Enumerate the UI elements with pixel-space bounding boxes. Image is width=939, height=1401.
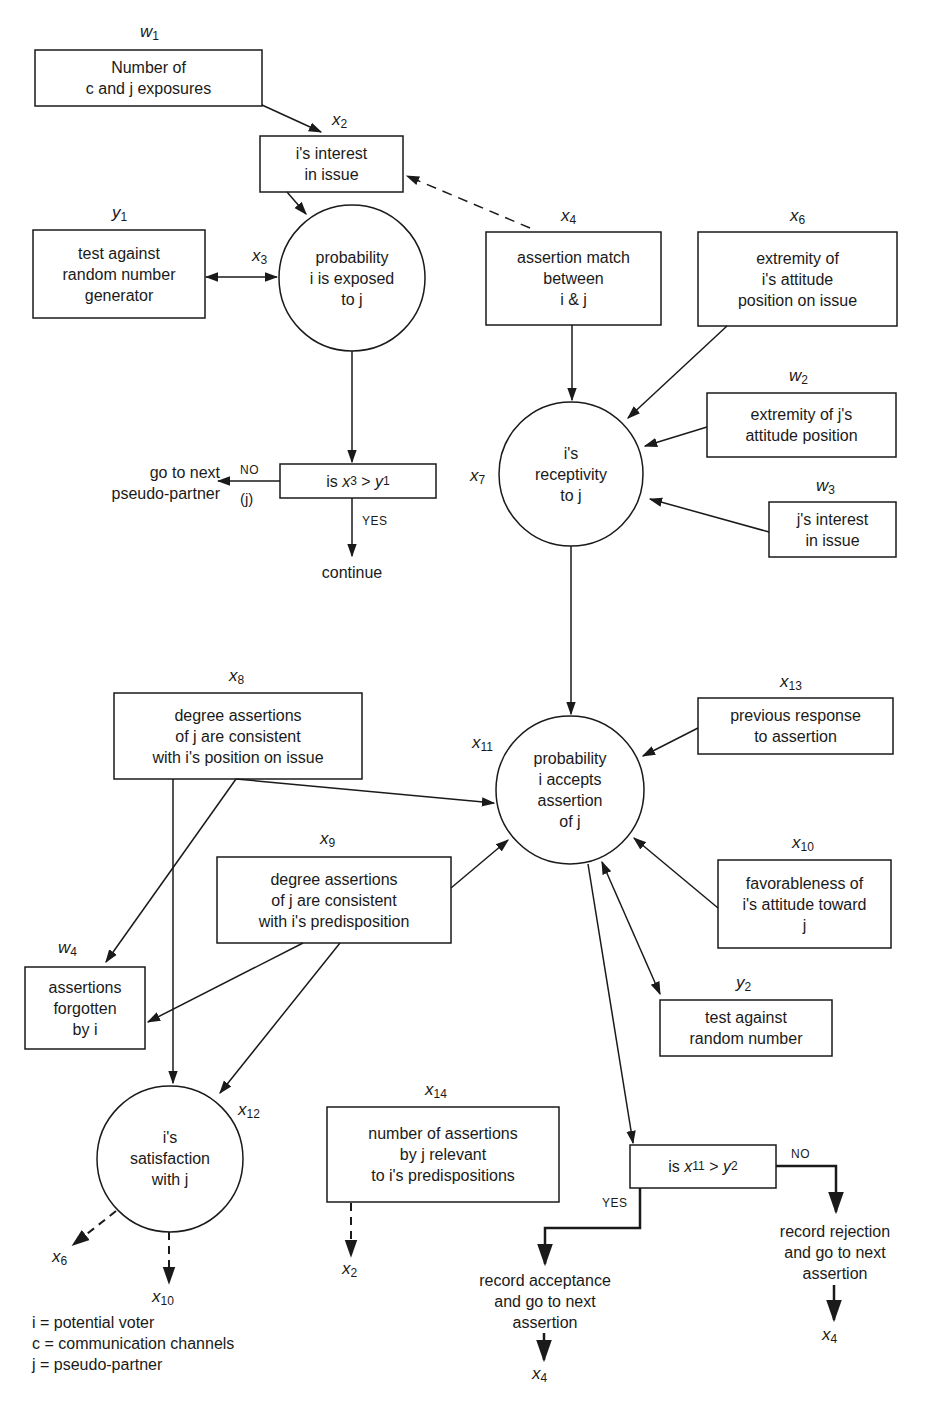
decision-1-no-text: go to next pseudo-partner [100, 462, 220, 504]
label-x14: x14 [425, 1080, 447, 1101]
legend-item-j: j = pseudo-partner [32, 1354, 234, 1375]
label-w4: w4 [58, 938, 77, 959]
node-y1-text: test against random number generator [33, 230, 205, 318]
node-w1-text: Number of c and j exposures [35, 50, 262, 106]
terminal-x10: x10 [152, 1287, 174, 1308]
node-x6-text: extremity of i's attitude position on is… [698, 232, 897, 326]
legend-item-c: c = communication channels [32, 1333, 234, 1354]
node-x13-text: previous response to assertion [698, 698, 893, 754]
node-w2-text: extremity of j's attitude position [707, 393, 896, 457]
node-x12-text: i's satisfaction with j [105, 1120, 235, 1196]
node-w3-text: j's interest in issue [769, 502, 896, 557]
label-x13: x13 [780, 672, 802, 693]
node-x7-text: i's receptivity to j [506, 436, 636, 512]
label-x11: x11 [472, 733, 493, 754]
legend: i = potential voter c = communication ch… [32, 1312, 234, 1375]
label-x10: x10 [792, 833, 814, 854]
label-x9: x9 [320, 829, 335, 850]
label-x4: x4 [561, 206, 576, 227]
decision-1-yes-label: YES [362, 514, 388, 528]
label-y1: y1 [112, 203, 127, 224]
label-x8: x8 [229, 666, 244, 687]
label-w1: w1 [140, 22, 159, 43]
legend-item-i: i = potential voter [32, 1312, 234, 1333]
label-y2: y2 [736, 973, 751, 994]
node-x11-text: probability i accepts assertion of j [505, 745, 635, 835]
terminal-x2: x2 [342, 1259, 357, 1280]
decision-2-yes-target: x4 [532, 1364, 547, 1385]
node-x8-text: degree assertions of j are consistent wi… [114, 693, 362, 779]
decision-1-yes-text: continue [302, 562, 402, 583]
node-x9-text: degree assertions of j are consistent wi… [217, 857, 451, 943]
decision-2-yes-label: YES [602, 1196, 628, 1210]
decision-2-no-label: NO [791, 1147, 810, 1161]
decision-2-yes-text: record acceptance and go to next asserti… [460, 1270, 630, 1333]
label-x3: x3 [252, 246, 267, 267]
terminal-x6: x6 [52, 1247, 67, 1268]
decision-1-condition: is x3 > y1 [280, 464, 436, 498]
node-x14-text: number of assertions by j relevant to i'… [327, 1107, 559, 1202]
label-w2: w2 [789, 366, 808, 387]
decision-2-condition: is x11 > y2 [630, 1145, 776, 1188]
node-x2-text: i's interest in issue [260, 136, 403, 192]
node-x4-text: assertion match between i & j [486, 232, 661, 325]
label-x2: x2 [332, 110, 347, 131]
decision-2-no-text: record rejection and go to next assertio… [760, 1221, 910, 1284]
flow-diagram: w1 x2 y1 x3 x4 x6 w2 w3 x7 x8 x11 x13 x9… [0, 0, 939, 1401]
node-x3-text: probability i is exposed to j [282, 240, 422, 316]
label-w3: w3 [816, 476, 835, 497]
node-y2-text: test against random number [660, 1000, 832, 1056]
decision-1-no-sublabel: (j) [240, 488, 253, 509]
label-x7: x7 [470, 466, 485, 487]
decision-1-no-label: NO [240, 463, 259, 477]
label-x6: x6 [790, 206, 805, 227]
decision-2-no-target: x4 [822, 1325, 837, 1346]
node-w4-text: assertions forgotten by i [25, 967, 145, 1049]
node-x10-text: favorableness of i's attitude toward j [718, 860, 891, 948]
label-x12: x12 [238, 1100, 260, 1121]
